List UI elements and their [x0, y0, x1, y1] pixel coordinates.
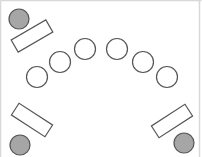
empty-seat-circle: [27, 67, 48, 88]
station-bottom-right: [151, 104, 194, 153]
station-bottom-left: [10, 103, 53, 155]
filled-seat-circle: [9, 9, 29, 29]
empty-seat-circle: [133, 52, 154, 73]
empty-seat-circle: [75, 39, 96, 60]
station-top-left: [9, 9, 53, 52]
empty-seat-circle: [50, 52, 71, 73]
filled-seat-circle: [10, 135, 30, 155]
seating-diagram: [0, 0, 202, 157]
seating-diagram-canvas: [0, 0, 202, 157]
empty-seat-circle: [157, 67, 178, 88]
arc-seats: [27, 39, 178, 88]
desk-rectangle: [11, 103, 52, 137]
empty-seat-circle: [107, 39, 128, 60]
filled-seat-circle: [174, 133, 194, 153]
